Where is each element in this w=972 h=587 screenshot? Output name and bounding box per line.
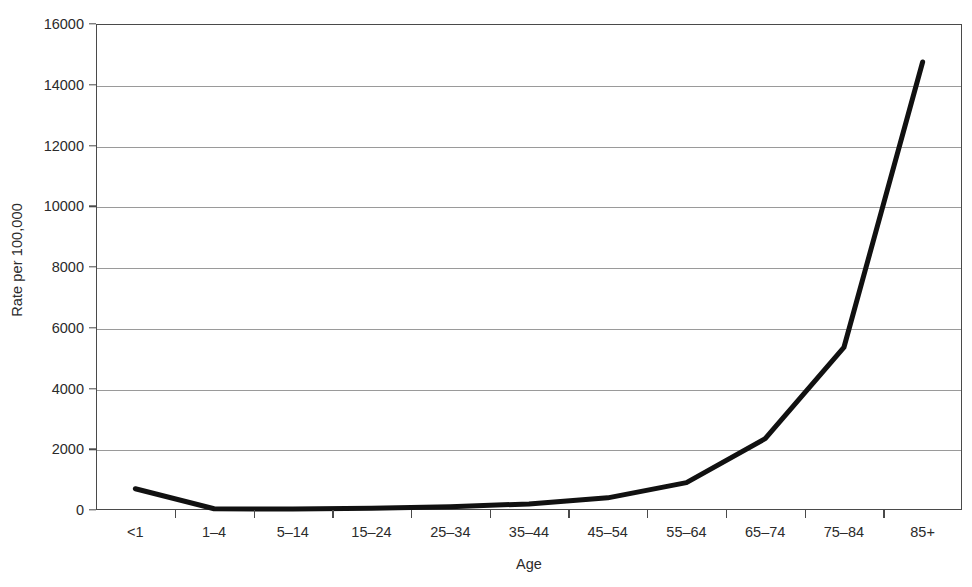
data-series-layer: [96, 24, 962, 510]
x-tick-mark-3: [332, 510, 333, 518]
y-tick-mark-14000: [89, 84, 96, 85]
x-tick-mark-2: [254, 510, 255, 518]
x-tick-mark-5: [490, 510, 491, 518]
y-tick-mark-0: [89, 509, 96, 510]
x-tick-label-10: 85+: [873, 524, 972, 540]
line-chart: Rate per 100,000 02000400060008000100001…: [0, 0, 972, 587]
y-tick-label-2000: 2000: [14, 441, 84, 457]
y-tick-mark-8000: [89, 266, 96, 267]
y-tick-mark-10000: [89, 206, 96, 207]
y-tick-mark-2000: [89, 449, 96, 450]
x-tick-mark-10: [883, 510, 884, 518]
y-tick-mark-16000: [89, 23, 96, 24]
x-tick-mark-8: [726, 510, 727, 518]
y-tick-label-14000: 14000: [14, 77, 84, 93]
x-tick-mark-7: [647, 510, 648, 518]
y-tick-label-16000: 16000: [14, 16, 84, 32]
y-axis-ticks: 0200040006000800010000120001400016000: [0, 0, 96, 587]
x-tick-mark-4: [411, 510, 412, 518]
x-axis-title: Age: [96, 556, 962, 572]
series-line-rate: [135, 62, 922, 509]
y-tick-label-12000: 12000: [14, 138, 84, 154]
y-tick-mark-4000: [89, 388, 96, 389]
y-tick-label-4000: 4000: [14, 381, 84, 397]
y-tick-label-6000: 6000: [14, 320, 84, 336]
x-tick-mark-1: [175, 510, 176, 518]
y-tick-mark-6000: [89, 327, 96, 328]
y-tick-label-0: 0: [14, 502, 84, 518]
y-tick-label-8000: 8000: [14, 259, 84, 275]
y-tick-mark-12000: [89, 145, 96, 146]
x-tick-mark-9: [805, 510, 806, 518]
x-tick-mark-6: [568, 510, 569, 518]
y-tick-label-10000: 10000: [14, 198, 84, 214]
